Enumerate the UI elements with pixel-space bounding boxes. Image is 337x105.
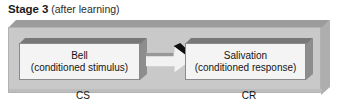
node-subtitle: (conditioned stimulus) <box>31 62 128 74</box>
node-subtitle: (conditioned response) <box>195 62 297 74</box>
node-title: Bell <box>71 50 88 62</box>
figure-caption: Stage 3 (after learning) <box>8 3 120 16</box>
diagram-panel: Bell (conditioned stimulus) Salivation (… <box>8 20 330 95</box>
panel-side-bevel <box>321 20 330 95</box>
stage-qualifier: (after learning) <box>51 3 119 15</box>
node-face: Salivation (conditioned response) <box>185 43 306 80</box>
node-conditioned-response: Salivation (conditioned response) <box>185 38 313 86</box>
sublabel-cr: CR <box>185 90 313 101</box>
node-conditioned-stimulus: Bell (conditioned stimulus) <box>19 38 147 86</box>
node-face: Bell (conditioned stimulus) <box>19 43 140 80</box>
node-side-bevel <box>306 38 313 80</box>
stage-label: Stage 3 <box>8 3 48 15</box>
classical-conditioning-stage-diagram: Stage 3 (after learning) Bell (condition… <box>0 0 337 105</box>
node-title: Salivation <box>224 50 267 62</box>
panel-face: Bell (conditioned stimulus) Salivation (… <box>8 27 321 93</box>
sublabel-cs: CS <box>19 90 147 101</box>
